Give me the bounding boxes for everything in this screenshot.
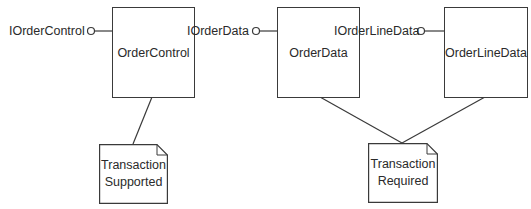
interface-label-i-order-control: IOrderControl [9,24,85,38]
lollipop-i-order-control-icon [88,28,95,35]
note-line-1: Transaction [101,157,166,174]
note-line-1: Transaction [371,156,436,173]
note-line-2: Supported [105,174,163,191]
component-label: OrderLineData [445,46,527,60]
note-transaction-supported[interactable]: Transaction Supported [99,144,168,204]
component-label: OrderControl [117,46,189,60]
interface-label-i-order-line-data: IOrderLineData [334,24,419,38]
component-order-control[interactable]: OrderControl [112,7,195,98]
component-order-line-data[interactable]: OrderLineData [444,7,528,98]
note-line-2: Required [378,173,429,190]
component-label: OrderData [289,46,347,60]
component-order-data[interactable]: OrderData [277,7,360,98]
interface-label-i-order-data: IOrderData [187,24,249,38]
note-transaction-required[interactable]: Transaction Required [368,143,438,203]
lollipop-i-order-data-icon [253,28,260,35]
